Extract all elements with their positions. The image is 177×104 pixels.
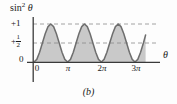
- y-axis-label-function: sin: [10, 2, 22, 13]
- y-axis-label-exponent: 2: [22, 1, 26, 9]
- figure-caption: (b): [0, 86, 177, 97]
- y-tick-label-one: +1: [11, 19, 21, 28]
- y-tick-half-fraction: 12: [16, 34, 21, 50]
- x-tick-label-3pi: 3π: [131, 64, 140, 73]
- x-axis-label: θ: [163, 50, 168, 60]
- x-tick-label-2pi: 2π: [97, 64, 106, 73]
- x-tick-label-0: 0: [35, 64, 40, 73]
- y-tick-label-half: +12: [11, 34, 21, 50]
- x-tick-2pi-symbol: π: [102, 63, 107, 73]
- x-tick-3pi-symbol: π: [136, 63, 141, 73]
- y-tick-half-denominator: 2: [16, 42, 21, 49]
- y-tick-label-zero: 0: [19, 55, 24, 64]
- figure-container: sin2 θ θ +1 +12 0 0 π 2π 3π (b): [0, 0, 177, 104]
- y-axis-label-variable: θ: [28, 2, 33, 13]
- y-axis-label: sin2 θ: [10, 2, 33, 13]
- x-tick-label-pi: π: [66, 64, 71, 73]
